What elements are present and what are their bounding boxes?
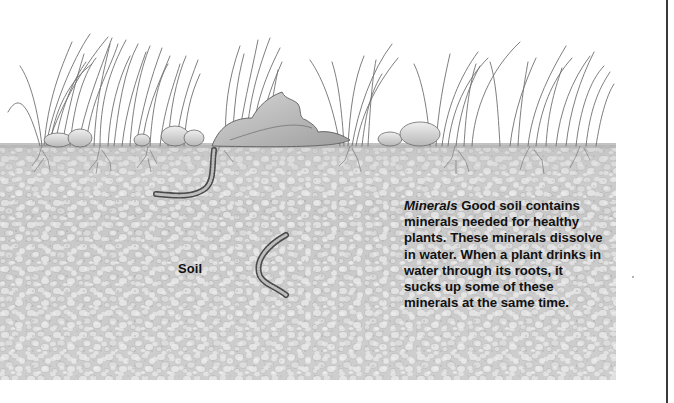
caption-body: Good soil contains minerals needed for h… — [404, 198, 603, 310]
caption-term: Minerals — [404, 198, 458, 213]
print-speck — [632, 276, 634, 278]
page-edge-rule — [666, 0, 668, 403]
minerals-caption: Minerals Good soil contains minerals nee… — [404, 198, 604, 311]
soil-label: Soil — [178, 261, 202, 276]
